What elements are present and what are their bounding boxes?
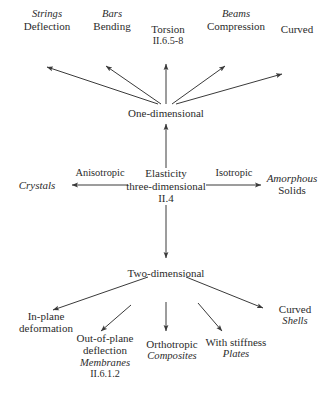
leaf-deflection: Strings Deflection	[24, 8, 70, 32]
elasticity-diagram: Strings Deflection Bars Bending Torsion …	[0, 0, 330, 400]
node-elasticity-3d: Elasticity three-dimensional II.4	[126, 167, 205, 205]
leaf-crystals-label: Crystals	[19, 179, 56, 191]
node-elasticity-3d-line1: Elasticity	[126, 167, 205, 180]
leaf-curved-beam: Curved	[281, 23, 313, 35]
leaf-curved-shells: Curved Shells	[279, 303, 311, 327]
node-two-dimensional-label: Two-dimensional	[128, 267, 205, 279]
edge-label-anisotropic-text: Anisotropic	[75, 167, 124, 178]
leaf-orthotropic-label: Orthotropic	[146, 338, 197, 350]
node-two-dimensional: Two-dimensional	[128, 267, 205, 279]
edge-2d-to-curvedshells	[186, 277, 263, 308]
leaf-solids-label: Solids	[267, 184, 318, 196]
leaf-membranes-label: Membranes	[77, 357, 134, 369]
leaf-amorphous-label: Amorphous	[267, 172, 318, 184]
leaf-with-stiffness-label: With stiffness	[206, 336, 267, 348]
edge-1d-to-compression	[172, 66, 225, 104]
leaf-torsion-name: Torsion	[151, 23, 184, 35]
leaf-orthotropic-composites: Orthotropic Composites	[146, 338, 197, 362]
leaf-torsion: Torsion II.6.5-8	[151, 23, 184, 47]
node-one-dimensional: One-dimensional	[128, 107, 204, 119]
leaf-amorphous-solids: Amorphous Solids	[267, 172, 318, 197]
edge-label-isotropic-text: Isotropic	[216, 167, 253, 178]
leaf-crystals: Crystals	[19, 179, 56, 191]
edge-2d-to-outofplane	[101, 305, 131, 331]
leaf-deflection-name: Deflection	[24, 20, 70, 32]
leaf-bending: Bars Bending	[93, 8, 130, 32]
leaf-in-plane-line1: In-plane	[19, 310, 73, 322]
edge-1d-to-deflection	[47, 67, 158, 104]
leaf-compression: Beams Compression	[207, 8, 265, 32]
leaf-torsion-ref: II.6.5-8	[151, 35, 184, 46]
leaf-membranes-ref: II.6.1.2	[77, 368, 134, 379]
leaf-with-stiffness-plates: With stiffness Plates	[206, 336, 267, 360]
leaf-curved-shell-label: Curved	[279, 303, 311, 315]
edge-2d-to-withstiff	[198, 303, 222, 331]
edge-1d-to-curved	[176, 74, 282, 104]
leaf-plates-label: Plates	[206, 348, 267, 360]
leaf-curved-beam-name: Curved	[281, 23, 313, 35]
leaf-bending-name: Bending	[93, 20, 130, 32]
leaf-in-plane-deformation: In-plane deformation	[19, 310, 73, 335]
node-elasticity-3d-line3: II.4	[126, 192, 205, 205]
node-elasticity-3d-line2: three-dimensional	[126, 180, 205, 193]
leaf-out-of-plane-line1: Out-of-plane	[77, 332, 134, 344]
leaf-compression-category: Beams	[207, 8, 265, 20]
node-one-dimensional-label: One-dimensional	[128, 107, 204, 119]
leaf-shells-label: Shells	[279, 315, 311, 327]
edge-label-isotropic: Isotropic	[216, 167, 253, 178]
leaf-out-of-plane-line2: deflection	[77, 344, 134, 356]
leaf-in-plane-line2: deformation	[19, 322, 73, 334]
edge-2d-to-inplane	[53, 277, 148, 310]
leaf-composites-label: Composites	[146, 350, 197, 362]
leaf-bending-category: Bars	[93, 8, 130, 20]
leaf-out-of-plane-deflection: Out-of-plane deflection Membranes II.6.1…	[77, 332, 134, 380]
leaf-compression-name: Compression	[207, 20, 265, 32]
leaf-deflection-category: Strings	[24, 8, 70, 20]
edge-label-anisotropic: Anisotropic	[75, 167, 124, 178]
edge-1d-to-bending	[106, 66, 161, 104]
